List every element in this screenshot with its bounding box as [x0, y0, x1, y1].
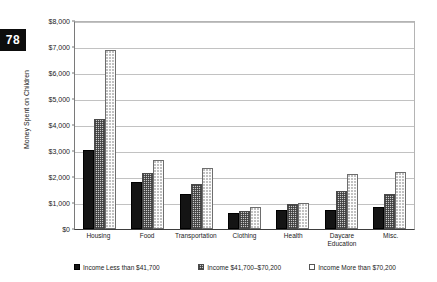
y-tick-label: $3,000	[34, 148, 70, 155]
bar-group	[220, 22, 268, 229]
bar	[131, 182, 142, 229]
bar-groups	[75, 22, 414, 229]
y-axis-tick-labels: $8,000$7,000$6,000$5,000$4,000$3,000$2,0…	[34, 0, 70, 282]
bar	[202, 168, 213, 229]
legend-swatch	[198, 264, 204, 270]
bar-group	[123, 22, 171, 229]
legend-label: Income $41,700–$70,200	[207, 264, 281, 271]
bar	[228, 213, 239, 229]
legend-item: Income $41,700–$70,200	[198, 264, 309, 271]
bar	[287, 204, 298, 229]
bar	[239, 211, 250, 229]
y-axis-title: Money Spent on Children	[23, 35, 30, 185]
bar-group	[172, 22, 220, 229]
x-tick-label: Misc.	[366, 232, 415, 254]
chart-figure: 78 Money Spent on Children $8,000$7,000$…	[0, 0, 437, 282]
bar-group	[75, 22, 123, 229]
bar	[325, 210, 336, 230]
bar	[94, 119, 105, 230]
bar	[395, 172, 406, 229]
bar	[347, 174, 358, 229]
x-tick-label: Health	[269, 232, 318, 254]
bar-group	[317, 22, 365, 229]
bar	[191, 184, 202, 230]
legend-swatch	[74, 264, 80, 270]
legend-item: Income Less than $41,700	[74, 264, 198, 271]
x-axis-tick-labels: HousingFoodTransportationClothingHealthD…	[74, 232, 415, 254]
bar	[180, 194, 191, 229]
y-tick-label: $7,000	[34, 44, 70, 51]
x-tick-label: Clothing	[220, 232, 269, 254]
x-tick-label: Housing	[74, 232, 123, 254]
bar	[373, 207, 384, 229]
x-tick-label: DaycareEducation	[318, 232, 367, 254]
plot-area	[74, 21, 415, 230]
y-tick-label: $8,000	[34, 18, 70, 25]
bar	[384, 194, 395, 229]
y-tick-label: $2,000	[34, 174, 70, 181]
legend-label: Income Less than $41,700	[83, 264, 160, 271]
bar	[153, 160, 164, 229]
bar	[105, 50, 116, 229]
bar-group	[269, 22, 317, 229]
y-tick-label: $0	[34, 226, 70, 233]
bar	[142, 173, 153, 229]
page-number-text: 78	[6, 33, 20, 47]
bar	[83, 150, 94, 229]
bar	[250, 207, 261, 229]
y-tick-label: $4,000	[34, 122, 70, 129]
bar	[336, 191, 347, 229]
bar	[276, 210, 287, 230]
y-tick-label: $1,000	[34, 200, 70, 207]
y-tick-label: $5,000	[34, 96, 70, 103]
x-tick-label: Transportation	[171, 232, 220, 254]
legend-label: Income More than $70,200	[318, 264, 396, 271]
bar-group	[366, 22, 414, 229]
legend-swatch	[309, 264, 315, 270]
legend-item: Income More than $70,200	[309, 264, 422, 271]
y-tick-label: $6,000	[34, 70, 70, 77]
x-tick-label: Food	[123, 232, 172, 254]
chart-legend: Income Less than $41,700Income $41,700–$…	[74, 261, 422, 273]
bar	[298, 203, 309, 229]
